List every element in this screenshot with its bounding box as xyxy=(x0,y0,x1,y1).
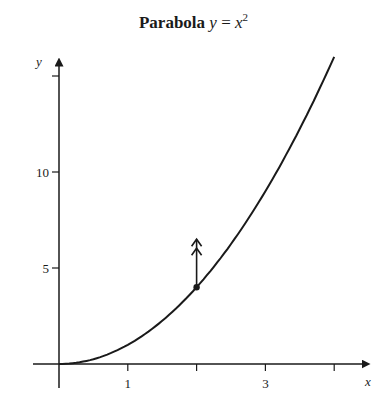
y-tick-label: 5 xyxy=(43,261,50,276)
y-tick-label: 10 xyxy=(36,165,49,180)
parabola-curve xyxy=(59,57,334,364)
plot-area: 13510 x y xyxy=(0,0,387,417)
x-tick-label: 3 xyxy=(262,376,269,391)
ticks: 13510 xyxy=(36,76,334,391)
x-axis-label: x xyxy=(364,374,371,389)
double-arrow-icon xyxy=(192,239,202,287)
x-tick-label: 1 xyxy=(125,376,132,391)
y-axis-label: y xyxy=(34,54,42,69)
axes xyxy=(33,62,366,388)
